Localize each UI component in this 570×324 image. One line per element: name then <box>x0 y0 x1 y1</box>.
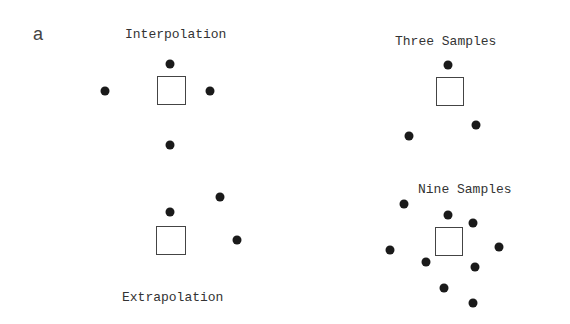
nine-samples-title: Nine Samples <box>418 182 512 197</box>
three-samples-title: Three Samples <box>395 34 496 49</box>
extrapolation-sample-dot <box>233 236 242 245</box>
nine-samples-sample-dot <box>469 219 478 228</box>
nine-samples-sample-dot <box>440 284 449 293</box>
nine-samples-sample-dot <box>495 243 504 252</box>
interpolation-sample-dot <box>206 87 215 96</box>
nine-samples-sample-dot <box>422 258 431 267</box>
interpolation-sample-dot <box>166 60 175 69</box>
interpolation-sample-dot <box>166 141 175 150</box>
interpolation-title: Interpolation <box>125 27 226 42</box>
three-samples-query-square <box>436 77 464 106</box>
nine-samples-sample-dot <box>386 246 395 255</box>
interpolation-sample-dot <box>101 87 110 96</box>
three-samples-sample-dot <box>472 121 481 130</box>
nine-samples-sample-dot <box>444 211 453 220</box>
nine-samples-sample-dot <box>469 299 478 308</box>
extrapolation-query-square <box>156 226 186 255</box>
panel-letter: a <box>33 24 43 45</box>
sampling-diagram: a Interpolation Three Samples Nine Sampl… <box>0 0 570 324</box>
nine-samples-sample-dot <box>471 263 480 272</box>
extrapolation-sample-dot <box>216 193 225 202</box>
nine-samples-sample-dot <box>400 200 409 209</box>
extrapolation-title: Extrapolation <box>122 290 223 305</box>
nine-samples-query-square <box>435 227 463 256</box>
three-samples-sample-dot <box>405 132 414 141</box>
extrapolation-sample-dot <box>166 208 175 217</box>
three-samples-sample-dot <box>444 61 453 70</box>
interpolation-query-square <box>157 76 186 105</box>
